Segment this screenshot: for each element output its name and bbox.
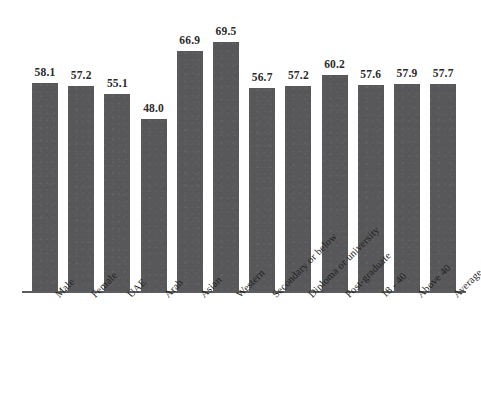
category-label: Arab [162, 292, 170, 300]
bar-value-label: 56.7 [252, 71, 273, 83]
bar-group: 56.7 [249, 0, 275, 292]
bar-value-label: 57.6 [360, 68, 381, 80]
bar-value-label: 57.2 [71, 69, 92, 81]
bar [430, 84, 456, 292]
bar-group: 58.1 [32, 0, 58, 292]
bar-value-label: 57.7 [433, 67, 454, 79]
category-label: Diploma or university [306, 292, 314, 300]
category-label: Above 40 [415, 292, 423, 300]
category-label: 18 - 40 [379, 292, 387, 300]
bar-group: 55.1 [104, 0, 130, 292]
bar-value-label: 58.1 [35, 66, 56, 78]
bar-value-label: 66.9 [179, 34, 200, 46]
bar [249, 88, 275, 292]
bar [104, 94, 130, 292]
bar-value-label: 48.0 [143, 102, 164, 114]
category-labels-layer: MaleFemaleUAEArabAsianWesternSecondary o… [0, 292, 481, 399]
category-label: Male [53, 292, 61, 300]
bar-group: 57.2 [285, 0, 311, 292]
bar [213, 42, 239, 292]
bar-group: 66.9 [177, 0, 203, 292]
bar [68, 86, 94, 292]
bar-group: 48.0 [141, 0, 167, 292]
plot-area: 58.157.255.148.066.969.556.757.260.257.6… [0, 0, 481, 399]
bar [32, 83, 58, 292]
bar-group: 57.9 [394, 0, 420, 292]
bar-value-label: 69.5 [216, 25, 237, 37]
category-label: Secondary or below [270, 292, 278, 300]
bar-group: 57.7 [430, 0, 456, 292]
bar-chart: 58.157.255.148.066.969.556.757.260.257.6… [0, 0, 481, 399]
category-label: Average [451, 292, 459, 300]
category-label: Asian [198, 292, 206, 300]
bar-value-label: 60.2 [324, 58, 345, 70]
bar [394, 84, 420, 292]
bar [141, 119, 167, 292]
bar-value-label: 57.2 [288, 69, 309, 81]
bar [177, 51, 203, 292]
category-label: Post-graduate [343, 292, 351, 300]
bars-layer: 58.157.255.148.066.969.556.757.260.257.6… [0, 0, 481, 292]
category-label: Western [234, 292, 242, 300]
bar-value-label: 55.1 [107, 77, 128, 89]
bar-group: 69.5 [213, 0, 239, 292]
bar-value-label: 57.9 [397, 67, 418, 79]
bar-group: 57.2 [68, 0, 94, 292]
category-label: Female [89, 292, 97, 300]
category-label: UAE [125, 292, 133, 300]
